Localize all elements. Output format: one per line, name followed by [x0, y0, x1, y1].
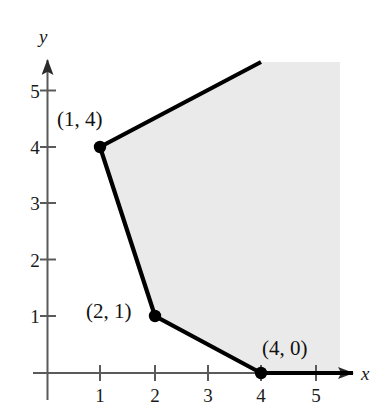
- y-tick-label-3: 3: [28, 194, 42, 213]
- y-axis-label: y: [39, 27, 47, 46]
- x-tick-label-4: 4: [254, 386, 268, 405]
- y-tick-label-5: 5: [28, 82, 42, 101]
- x-tick-label-3: 3: [201, 386, 215, 405]
- x-tick-label-5: 5: [309, 386, 323, 405]
- vertex-label-2-1: (2, 1): [86, 301, 132, 322]
- vertex-label-4-0: (4, 0): [262, 338, 308, 359]
- x-tick-label-2: 2: [148, 386, 162, 405]
- y-tick-label-2: 2: [28, 251, 42, 270]
- x-tick-label-1: 1: [93, 386, 107, 405]
- shaded-feasible-region: [100, 62, 340, 373]
- vertex-point-1-4: [94, 141, 106, 153]
- y-tick-label-4: 4: [28, 138, 42, 157]
- x-axis-label: x: [361, 364, 369, 383]
- vertex-point-2-1: [149, 310, 161, 322]
- y-tick-label-1: 1: [28, 307, 42, 326]
- vertex-point-4-0: [255, 367, 267, 379]
- feasible-region-figure: y x 5 4 3 2 1 1 2 3 4 5 (1, 4) (2, 1) (4…: [0, 0, 384, 418]
- plot-canvas: [0, 0, 384, 418]
- vertex-label-1-4: (1, 4): [57, 109, 103, 130]
